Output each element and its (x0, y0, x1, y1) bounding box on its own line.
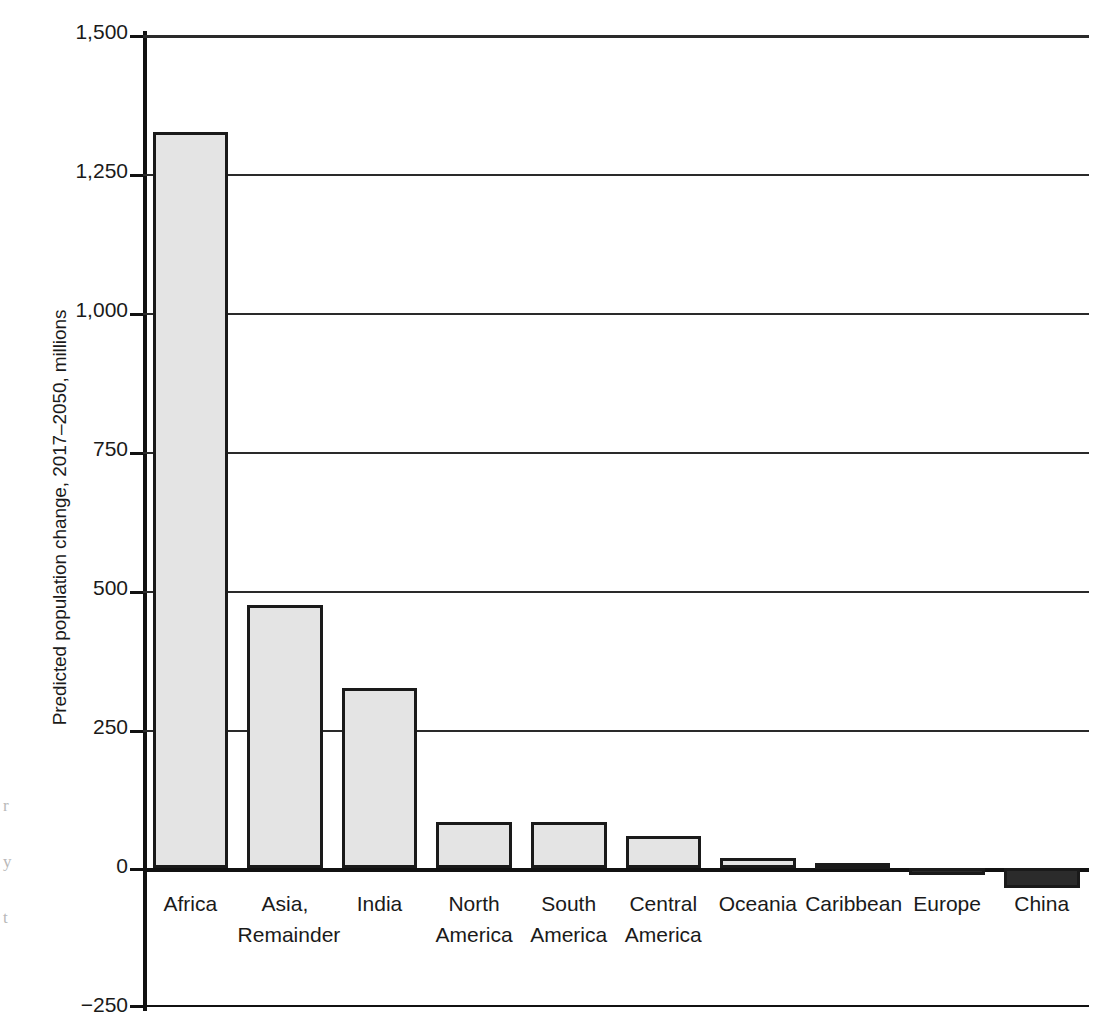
bar-asia-remainder[interactable] (247, 605, 323, 868)
bar-africa[interactable] (153, 132, 229, 868)
y-tick-500 (130, 591, 143, 594)
y-tick--250 (130, 1005, 143, 1008)
bars-layer (143, 0, 1089, 1035)
bar-north-america[interactable] (436, 822, 512, 868)
y-tick-750 (130, 452, 143, 455)
y-tick-label-0: 0 (116, 854, 128, 878)
category-label-europe: Europe (900, 888, 995, 919)
category-label-oceania: Oceania (711, 888, 806, 919)
category-label-asia-remainder: Asia,Remainder (238, 888, 333, 950)
bar-china[interactable] (1004, 868, 1080, 888)
y-tick-label-750: 750 (93, 437, 128, 461)
bar-oceania[interactable] (720, 858, 796, 868)
bar-india[interactable] (342, 688, 418, 868)
bar-central-america[interactable] (626, 836, 702, 868)
y-tick-label--250: −250 (81, 993, 128, 1017)
bar-chart-figure: Predicted population change, 2017–2050, … (0, 0, 1119, 1035)
bar-south-america[interactable] (531, 822, 607, 868)
y-tick-label-1000: 1,000 (75, 298, 128, 322)
y-axis-tick-labels: 1,500 1,250 1,000 750 500 250 0 −250 (0, 0, 128, 1035)
y-tick-1500 (130, 35, 143, 38)
category-label-china: China (994, 888, 1089, 919)
bar-caribbean[interactable] (815, 863, 891, 869)
category-label-india: India (332, 888, 427, 919)
y-tick-1250 (130, 174, 143, 177)
category-label-africa: Africa (143, 888, 238, 919)
y-tick-label-1250: 1,250 (75, 159, 128, 183)
x-axis-category-labels: Africa Asia,Remainder India NorthAmerica… (143, 888, 1089, 978)
y-tick-250 (130, 730, 143, 733)
y-tick-0 (130, 868, 143, 871)
category-label-caribbean: Caribbean (805, 888, 900, 919)
bar-europe[interactable] (909, 868, 985, 875)
category-label-north-america: NorthAmerica (427, 888, 522, 950)
y-tick-label-250: 250 (93, 715, 128, 739)
y-tick-label-1500: 1,500 (75, 20, 128, 44)
category-label-south-america: SouthAmerica (521, 888, 616, 950)
category-label-central-america: CentralAmerica (616, 888, 711, 950)
y-tick-1000 (130, 313, 143, 316)
y-tick-label-500: 500 (93, 576, 128, 600)
